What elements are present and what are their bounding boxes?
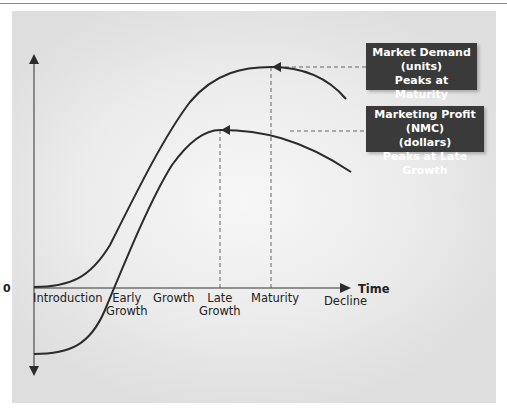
y-axis-up-arrow-icon [29, 54, 39, 64]
guide-lines [220, 67, 366, 288]
market-demand-callout: Market Demand (units) Peaks at Maturity [366, 43, 477, 90]
stage-introduction: Introduction [33, 292, 103, 305]
profit-peak-arrow-icon [221, 125, 230, 135]
demand-peak-arrow-icon [272, 62, 281, 72]
stage-early-growth: Early Growth [106, 292, 148, 318]
stage-growth: Growth [153, 292, 195, 305]
stage-maturity: Maturity [251, 292, 299, 305]
stage-decline: Decline [324, 295, 367, 308]
market-demand-curve [34, 67, 346, 287]
x-axis-arrow-icon [340, 283, 351, 293]
marketing-profit-curve [34, 130, 351, 354]
stage-late-growth: Late Growth [199, 292, 241, 318]
y-origin-label: 0 [3, 282, 11, 295]
marketing-profit-callout: Marketing Profit (NMC) (dollars) Peaks a… [366, 106, 484, 152]
y-axis [29, 54, 39, 376]
y-axis-down-arrow-icon [29, 366, 39, 376]
